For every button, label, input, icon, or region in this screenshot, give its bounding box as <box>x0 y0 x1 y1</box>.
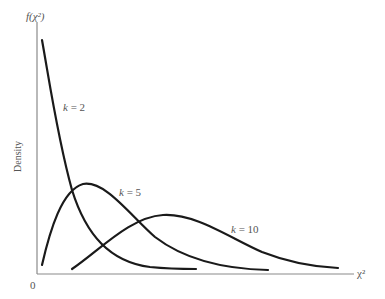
label-k10: k = 10 <box>231 224 259 235</box>
label-k2-value: = 2 <box>68 101 85 113</box>
origin-label: 0 <box>30 280 36 291</box>
y-axis-top-label-text: f(χ²) <box>26 10 45 22</box>
label-k5-value: = 5 <box>124 186 141 198</box>
x-axis-label: χ² <box>357 268 365 279</box>
label-k5: k = 5 <box>119 187 141 198</box>
chi-square-chart <box>0 0 385 299</box>
label-k10-value: = 10 <box>236 223 259 235</box>
label-k2: k = 2 <box>63 102 85 113</box>
y-axis-label: Density <box>12 141 23 172</box>
y-axis-top-label: f(χ²) <box>26 11 45 22</box>
